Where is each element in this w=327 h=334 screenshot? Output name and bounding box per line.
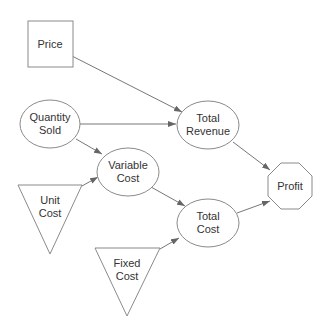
node-fixed-cost-label: Fixed Cost [114, 257, 141, 283]
edge-unit-cost-to-variable-cost [82, 177, 98, 186]
unit-cost-line2: Cost [39, 207, 62, 220]
node-variable-cost-label: Variable Cost [108, 159, 148, 185]
node-total-revenue-label: Total Revenue [186, 112, 230, 138]
edge-total-revenue-to-profit [233, 142, 270, 170]
edge-fixed-cost-to-total-cost [160, 238, 179, 249]
edge-quantity-sold-to-variable-cost [76, 139, 102, 154]
fixed-cost-line2: Cost [114, 270, 141, 283]
price-text: Price [37, 38, 62, 50]
edge-variable-cost-to-total-cost [151, 187, 185, 206]
unit-cost-line1: Unit [39, 194, 62, 207]
node-price-label: Price [37, 38, 62, 51]
edge-price-to-total-revenue [72, 56, 182, 112]
node-unit-cost-label: Unit Cost [39, 194, 62, 220]
node-profit-label: Profit [277, 180, 303, 193]
quantity-sold-line2: Sold [30, 124, 71, 137]
edge-total-cost-to-profit [237, 201, 270, 213]
node-total-cost-label: Total Cost [196, 210, 219, 236]
fixed-cost-line1: Fixed [114, 257, 141, 270]
variable-cost-line1: Variable [108, 159, 148, 172]
node-quantity-sold-label: Quantity Sold [30, 111, 71, 137]
total-revenue-line1: Total [186, 112, 230, 125]
variable-cost-line2: Cost [108, 172, 148, 185]
total-cost-line2: Cost [196, 223, 219, 236]
total-revenue-line2: Revenue [186, 125, 230, 138]
total-cost-line1: Total [196, 210, 219, 223]
profit-text: Profit [277, 180, 303, 192]
influence-diagram: Price Quantity Sold Total Revenue Variab… [0, 0, 327, 334]
quantity-sold-line1: Quantity [30, 111, 71, 124]
